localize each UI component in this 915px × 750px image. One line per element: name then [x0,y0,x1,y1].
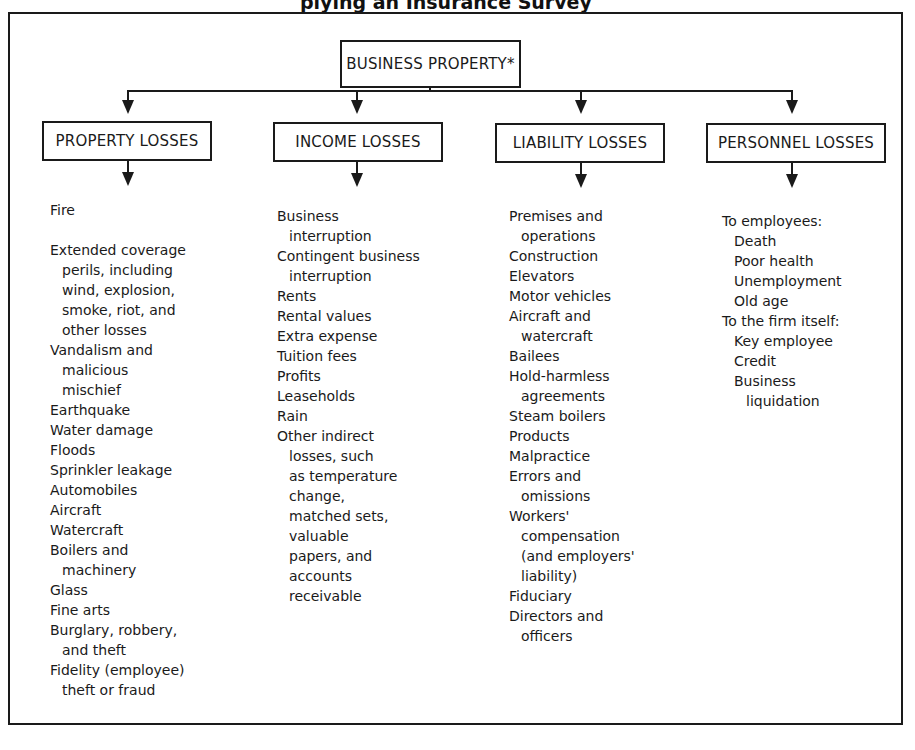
list-item: Steam boilers [509,406,635,426]
list-item: Poor health [722,251,842,271]
list-item: Water damage [50,420,186,440]
list-item: Burglary, robbery, [50,620,186,640]
list-item: omissions [509,486,635,506]
list-item: smoke, riot, and [50,300,186,320]
list-item: Vandalism and [50,340,186,360]
property-losses-list: Fire Extended coverageperils, includingw… [50,200,186,700]
list-item: change, [277,486,420,506]
category-label: LIABILITY LOSSES [513,134,648,152]
list-item: Workers' [509,506,635,526]
list-item: Old age [722,291,842,311]
list-item: operations [509,226,635,246]
personnel-losses-list: To employees:DeathPoor healthUnemploymen… [722,211,842,411]
list-item: Glass [50,580,186,600]
root-box-business-property: BUSINESS PROPERTY* [340,40,521,88]
list-item: Errors and [509,466,635,486]
list-item: Fiduciary [509,586,635,606]
category-label: PERSONNEL LOSSES [718,134,874,152]
list-item: Death [722,231,842,251]
list-item: Profits [277,366,420,386]
income-losses-list: BusinessinterruptionContingent businessi… [277,206,420,606]
arrow-down-icon [575,174,587,188]
list-item: losses, such [277,446,420,466]
list-item: Aircraft [50,500,186,520]
category-box-income-losses: INCOME LOSSES [273,122,443,162]
list-item: Elevators [509,266,635,286]
list-item: interruption [277,266,420,286]
arrow-down-icon [122,172,134,186]
list-item: officers [509,626,635,646]
list-item: Contingent business [277,246,420,266]
list-item: Extended coverage [50,240,186,260]
list-item: Other indirect [277,426,420,446]
list-item: Fine arts [50,600,186,620]
list-item: Rental values [277,306,420,326]
list-item: Business [722,371,842,391]
list-item: Floods [50,440,186,460]
list-item: Fidelity (employee) [50,660,186,680]
arrow-down-icon [786,100,798,114]
list-item: Business [277,206,420,226]
list-item: liability) [509,566,635,586]
list-item: Earthquake [50,400,186,420]
list-item: Boilers and [50,540,186,560]
list-item: Extra expense [277,326,420,346]
list-item: watercraft [509,326,635,346]
list-item: Aircraft and [509,306,635,326]
list-item: Watercraft [50,520,186,540]
list-item: and theft [50,640,186,660]
arrow-down-icon [351,173,363,187]
list-item: Premises and [509,206,635,226]
arrow-down-icon [351,100,363,114]
list-item: agreements [509,386,635,406]
list-item: valuable [277,526,420,546]
category-box-liability-losses: LIABILITY LOSSES [495,123,665,163]
list-item: Leaseholds [277,386,420,406]
list-item: Credit [722,351,842,371]
list-item: Construction [509,246,635,266]
list-item: interruption [277,226,420,246]
list-item: To employees: [722,211,842,231]
list-item: as temperature [277,466,420,486]
category-label: INCOME LOSSES [295,133,420,151]
list-item: accounts [277,566,420,586]
list-item: Bailees [509,346,635,366]
list-item: mischief [50,380,186,400]
list-item: (and employers' [509,546,635,566]
list-item: machinery [50,560,186,580]
category-box-personnel-losses: PERSONNEL LOSSES [706,123,886,163]
list-item: theft or fraud [50,680,186,700]
branch-horizontal-line [127,90,792,92]
list-item: Key employee [722,331,842,351]
list-item: compensation [509,526,635,546]
list-item: Tuition fees [277,346,420,366]
list-item: Fire [50,200,186,220]
list-item: Rain [277,406,420,426]
list-item: Products [509,426,635,446]
list-item: Rents [277,286,420,306]
list-item: matched sets, [277,506,420,526]
list-item: To the firm itself: [722,311,842,331]
list-item: Automobiles [50,480,186,500]
list-item: receivable [277,586,420,606]
arrow-down-icon [575,100,587,114]
list-item: Hold-harmless [509,366,635,386]
liability-losses-list: Premises andoperationsConstructionElevat… [509,206,635,646]
list-item: Malpractice [509,446,635,466]
list-item: wind, explosion, [50,280,186,300]
arrow-down-icon [786,174,798,188]
list-item: other losses [50,320,186,340]
list-item [50,220,186,240]
list-item: Motor vehicles [509,286,635,306]
list-item: Directors and [509,606,635,626]
category-label: PROPERTY LOSSES [56,132,199,150]
list-item: papers, and [277,546,420,566]
category-box-property-losses: PROPERTY LOSSES [42,121,212,161]
root-label: BUSINESS PROPERTY* [346,55,514,73]
list-item: Sprinkler leakage [50,460,186,480]
list-item: malicious [50,360,186,380]
list-item: perils, including [50,260,186,280]
list-item: Unemployment [722,271,842,291]
list-item: liquidation [722,391,842,411]
arrow-down-icon [122,100,134,114]
